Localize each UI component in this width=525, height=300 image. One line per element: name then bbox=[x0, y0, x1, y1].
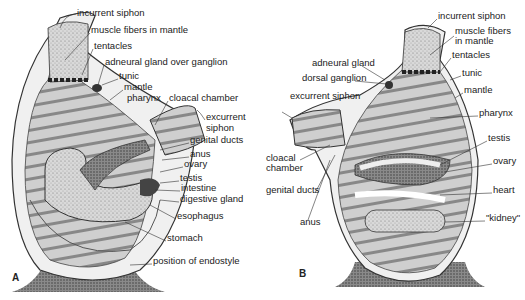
anatomy-label: heart bbox=[493, 185, 515, 195]
anatomy-label: position of endostyle bbox=[153, 256, 240, 266]
anatomy-label: stomach bbox=[167, 233, 203, 243]
anatomy-label: ovary bbox=[184, 159, 207, 169]
anatomy-label: incurrent siphon bbox=[77, 8, 145, 18]
anatomy-label: dorsal ganglion bbox=[302, 73, 366, 83]
anatomy-label: excurrent siphon bbox=[290, 91, 360, 101]
anatomy-label: anus bbox=[300, 217, 321, 227]
anatomy-label: pharynx bbox=[479, 108, 513, 118]
panel-b-letter: B bbox=[299, 268, 306, 279]
anatomy-label: digestive gland bbox=[180, 194, 243, 204]
anatomy-label: adneural gland bbox=[312, 58, 375, 68]
anatomy-label: testis bbox=[488, 133, 510, 143]
anatomy-label: genital ducts bbox=[266, 185, 319, 195]
anatomy-label: tentacles bbox=[452, 50, 490, 60]
panel-a-letter: A bbox=[12, 272, 19, 283]
anatomy-label: genital ducts bbox=[190, 135, 243, 145]
anatomy-label: mantle bbox=[124, 82, 153, 92]
anatomy-label: tunic bbox=[119, 71, 139, 81]
anatomy-label: intestine bbox=[181, 183, 216, 193]
anatomy-label: cloacal chamber bbox=[169, 93, 238, 103]
anatomy-label: tentacles bbox=[94, 41, 132, 51]
anatomy-label: chamber bbox=[266, 163, 303, 173]
anatomy-label: incurrent siphon bbox=[438, 11, 506, 21]
anatomy-label: in mantle bbox=[455, 36, 494, 46]
anatomy-label: tunic bbox=[462, 68, 482, 78]
anatomy-label: excurrent bbox=[206, 112, 246, 122]
anatomy-label: mantle bbox=[464, 85, 493, 95]
anatomy-label: pharynx bbox=[127, 93, 161, 103]
panel-a-drawing bbox=[12, 12, 205, 292]
anatomy-label: siphon bbox=[206, 123, 234, 133]
anatomy-label: muscle fibers in mantle bbox=[91, 25, 188, 35]
anatomy-label: adneural gland over ganglion bbox=[105, 57, 228, 67]
anatomy-label: "kidney" bbox=[486, 213, 520, 223]
tunicate-diagram bbox=[0, 0, 525, 300]
anatomy-label: esophagus bbox=[177, 211, 223, 221]
anatomy-label: ovary bbox=[493, 156, 516, 166]
